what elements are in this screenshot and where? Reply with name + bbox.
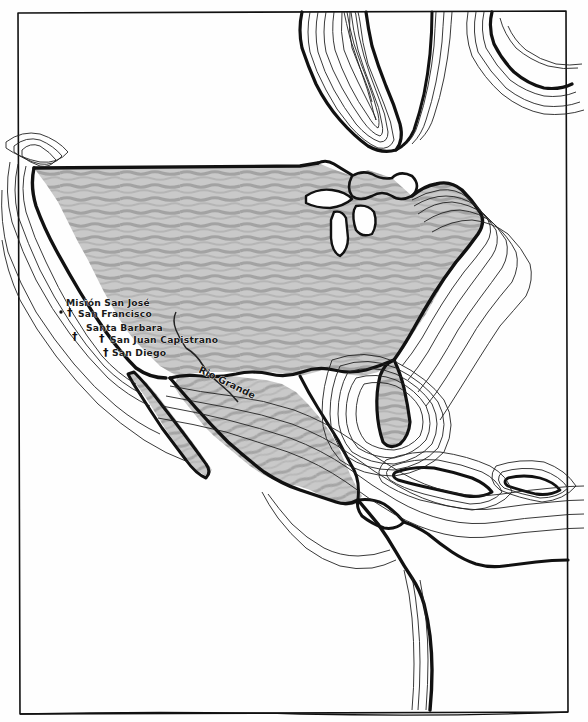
cross-icon-santa-barbara: † — [72, 330, 78, 343]
label-san-diego: San Diego — [112, 347, 166, 358]
mission-dot-marker — [59, 310, 62, 313]
label-mision-san-jose: Misión San José — [66, 297, 150, 308]
label-san-juan-capistrano: San Juan Capistrano — [110, 334, 218, 345]
cross-icon-san-diego: † — [103, 346, 109, 359]
cross-icon-san-juan-capistrano: † — [99, 332, 105, 345]
label-santa-barbara: Santa Barbara — [86, 322, 163, 333]
hand-drawn-map: † † † † Misión San José San Francisco Sa… — [0, 0, 588, 722]
map-canvas: † † † † Misión San José San Francisco Sa… — [0, 0, 588, 722]
label-san-francisco: San Francisco — [78, 308, 152, 319]
